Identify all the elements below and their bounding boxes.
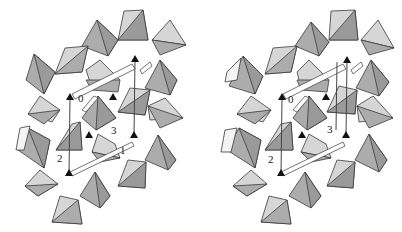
axis-label-1: 1 bbox=[120, 144, 126, 156]
tetrahedra-layer bbox=[16, 10, 186, 224]
tetrahedron-face bbox=[25, 184, 58, 196]
tetrahedron-face bbox=[307, 96, 327, 130]
axis-line bbox=[281, 98, 282, 174]
stereo-view-right: 0 3 2 bbox=[201, 0, 402, 232]
axis-label-2: 2 bbox=[57, 152, 63, 164]
axis-label-3: 3 bbox=[111, 124, 117, 136]
axis-label-0: 0 bbox=[288, 93, 294, 105]
triangle-marker bbox=[342, 131, 350, 138]
triangle-marker bbox=[85, 131, 93, 138]
stereo-view-left: 0 3 1 2 bbox=[0, 0, 201, 232]
axis-line bbox=[134, 60, 135, 136]
tetrahedron-face bbox=[233, 184, 267, 196]
tetrahedron-face bbox=[265, 122, 293, 150]
tetrahedra-layer bbox=[221, 10, 394, 224]
channel-bar bbox=[140, 62, 152, 74]
channel-bar bbox=[351, 62, 363, 74]
framework-diagram-right: 0 3 2 bbox=[201, 0, 402, 232]
axis-label-2: 2 bbox=[268, 153, 274, 165]
triangle-marker bbox=[131, 55, 139, 62]
axis-label-3: 3 bbox=[327, 123, 333, 135]
triangle-marker bbox=[298, 131, 306, 138]
axis-line bbox=[69, 98, 70, 174]
axis-line bbox=[346, 61, 347, 136]
triangle-marker bbox=[322, 93, 330, 100]
axis-label-0: 0 bbox=[78, 92, 84, 104]
triangle-marker bbox=[109, 93, 117, 100]
framework-diagram-left: 0 3 1 2 bbox=[0, 0, 201, 232]
triangle-marker bbox=[343, 56, 351, 63]
triangle-marker bbox=[130, 131, 138, 138]
